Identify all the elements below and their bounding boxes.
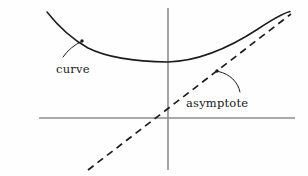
figure-canvas: curve asymptote	[0, 0, 308, 176]
curve-leader-line	[63, 42, 82, 58]
asymptote-path	[88, 14, 291, 170]
curve-label: curve	[56, 62, 90, 76]
asymptote-label: asymptote	[186, 96, 248, 110]
curve-leader-dot	[80, 39, 83, 42]
asymptote-leader-line	[219, 72, 241, 93]
asymptote-leader-dot	[215, 69, 218, 72]
